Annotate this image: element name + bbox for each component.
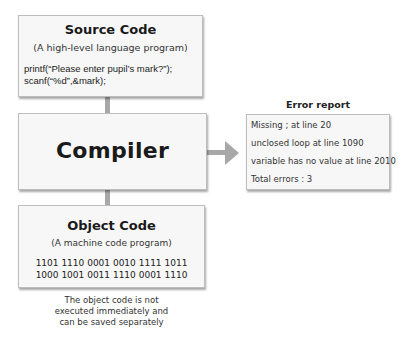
object-code-subtitle: (A machine code program) (19, 238, 204, 248)
error-line: Missing ; at line 20 (251, 120, 331, 130)
object-code-note: The object code is not executed immediat… (18, 295, 205, 328)
object-code-title: Object Code (19, 218, 204, 233)
source-code-line: printf(“Please enter pupil’s mark?”); (24, 63, 172, 74)
binary-line: 1101 1110 0001 0010 1111 1011 (19, 258, 204, 268)
compiler-box: Compiler (18, 113, 207, 190)
error-line: unclosed loop at line 1090 (251, 138, 364, 148)
error-report-box: Missing ; at line 20 unclosed loop at li… (246, 114, 390, 190)
arrow-right-icon (225, 141, 239, 165)
compiler-title: Compiler (19, 138, 206, 163)
connector-compiler-error (207, 150, 226, 155)
note-line: can be saved separately (18, 317, 205, 328)
object-code-box: Object Code (A machine code program) 110… (18, 205, 205, 288)
error-total: Total errors : 3 (251, 174, 312, 184)
note-line: The object code is not (18, 295, 205, 306)
source-code-line: scanf(“%d”,&mark); (24, 75, 106, 86)
binary-line: 1000 1001 0011 1110 0001 1110 (19, 270, 204, 280)
note-line: executed immediately and (18, 306, 205, 317)
error-report-title: Error report (246, 99, 390, 110)
source-code-subtitle: (A high-level language program) (19, 42, 202, 53)
source-code-box: Source Code (A high-level language progr… (18, 15, 203, 97)
source-code-title: Source Code (19, 22, 202, 37)
error-line: variable has no value at line 2010 (251, 156, 396, 166)
